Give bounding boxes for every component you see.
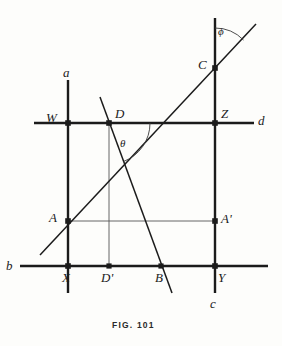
point-dot-Y (212, 263, 218, 269)
point-dot-A (65, 218, 71, 224)
figure-container: W D Z C A A' X D' B Y a b c d θ ϕ FIG. 1… (0, 0, 282, 346)
point-label-B: B (155, 271, 163, 284)
point-label-W: W (46, 111, 57, 124)
line-label-c: c (210, 297, 216, 310)
geometry-diagram (0, 0, 282, 346)
line-label-b: b (6, 259, 13, 272)
point-label-A: A (49, 211, 57, 224)
line-label-a: a (63, 66, 70, 79)
point-label-D: D (115, 107, 124, 120)
point-dot-W (65, 120, 71, 126)
point-label-Z: Z (221, 107, 228, 120)
point-dot-A-prime (212, 218, 218, 224)
point-label-X: X (62, 271, 70, 284)
point-dot-C (212, 65, 218, 71)
angle-label-phi: ϕ (218, 26, 224, 37)
angle-label-theta: θ (120, 138, 125, 149)
point-label-D-prime: D' (101, 271, 113, 284)
point-label-A-prime: A' (221, 212, 232, 225)
point-label-C: C (198, 58, 207, 71)
line-label-d: d (258, 114, 265, 127)
point-dot-D-prime (106, 263, 111, 268)
point-dot-B (158, 263, 163, 268)
point-label-Y: Y (218, 271, 225, 284)
point-dot-X (65, 263, 71, 269)
point-dot-Z (212, 120, 218, 126)
point-dot-D (106, 120, 112, 126)
figure-caption: FIG. 101 (112, 320, 155, 330)
